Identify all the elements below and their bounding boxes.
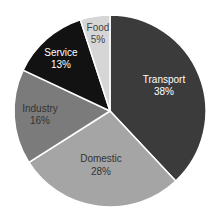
slice-label-food-pct: 5% [91,34,106,45]
slice-label-service-pct: 13% [51,59,71,70]
slice-label-industry-pct: 16% [30,115,50,126]
slice-label-food-name: Food [87,22,110,33]
slice-label-domestic-pct: 28% [91,166,111,177]
slice-label-domestic-name: Domestic [80,153,122,164]
slice-label-industry-name: Industry [22,103,58,114]
slice-label-transport-name: Transport [143,74,186,85]
slice-label-service-name: Service [44,47,78,58]
pie-chart: Transport 38% Domestic 28% Industry 16% … [0,0,216,210]
slice-label-transport-pct: 38% [154,86,174,97]
